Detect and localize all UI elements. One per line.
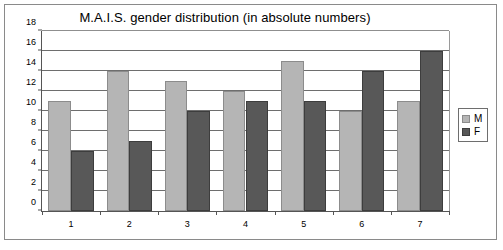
- x-tick-mark: [158, 211, 159, 215]
- y-tick-mark: [38, 110, 42, 111]
- y-tick-label: 14: [26, 57, 36, 67]
- bar-F-6: [362, 71, 385, 211]
- x-tick-label-4: 4: [243, 219, 248, 229]
- x-tick-label-6: 6: [359, 219, 364, 229]
- x-tick-mark: [275, 211, 276, 215]
- bar-M-7: [397, 101, 420, 211]
- bar-M-6: [339, 111, 362, 211]
- bar-F-1: [71, 151, 94, 211]
- y-tick-label: 8: [31, 117, 36, 127]
- x-tick-mark: [42, 211, 43, 215]
- y-tick-label: 6: [31, 137, 36, 147]
- y-tick-mark: [38, 130, 42, 131]
- bar-M-3: [165, 81, 188, 211]
- bar-F-3: [187, 111, 210, 211]
- x-tick-label-3: 3: [185, 219, 190, 229]
- bar-M-4: [223, 91, 246, 211]
- y-tick-label: 2: [31, 177, 36, 187]
- bar-M-1: [48, 101, 71, 211]
- y-tick-label: 0: [31, 197, 36, 207]
- gridline: [42, 30, 449, 31]
- x-tick-label-1: 1: [69, 219, 74, 229]
- legend-swatch-M-icon: [462, 115, 470, 123]
- bar-F-4: [246, 101, 269, 211]
- plot-area: 024681012141618 1234567: [41, 31, 449, 212]
- y-tick-mark: [38, 70, 42, 71]
- gridline: [42, 90, 449, 91]
- x-tick-mark: [391, 211, 392, 215]
- legend-label: F: [474, 127, 480, 137]
- chart-frame: M.A.I.S. gender distribution (in absolut…: [4, 4, 497, 240]
- y-tick-mark: [38, 170, 42, 171]
- bar-F-7: [420, 51, 443, 211]
- y-tick-mark: [38, 90, 42, 91]
- bar-F-5: [304, 101, 327, 211]
- x-tick-label-5: 5: [301, 219, 306, 229]
- y-tick-mark: [38, 30, 42, 31]
- legend-item-M[interactable]: M: [462, 112, 482, 125]
- y-tick-mark: [38, 150, 42, 151]
- y-tick-label: 16: [26, 37, 36, 47]
- legend-item-F[interactable]: F: [462, 125, 482, 138]
- chart-title: M.A.I.S. gender distribution (in absolut…: [5, 10, 445, 25]
- y-tick-label: 12: [26, 77, 36, 87]
- bar-M-5: [281, 61, 304, 211]
- bar-F-2: [129, 141, 152, 211]
- x-tick-mark: [100, 211, 101, 215]
- plot-right-edge: [449, 31, 450, 211]
- x-tick-mark: [449, 211, 450, 215]
- legend-swatch-F-icon: [462, 128, 470, 136]
- chart-legend: MF: [458, 108, 488, 142]
- y-tick-label: 10: [26, 97, 36, 107]
- x-tick-label-7: 7: [417, 219, 422, 229]
- y-tick-mark: [38, 50, 42, 51]
- x-tick-label-2: 2: [127, 219, 132, 229]
- legend-label: M: [474, 114, 482, 124]
- gridline: [42, 50, 449, 51]
- x-tick-mark: [216, 211, 217, 215]
- gridline: [42, 70, 449, 71]
- y-tick-label: 18: [26, 17, 36, 27]
- bar-M-2: [107, 71, 130, 211]
- y-tick-label: 4: [31, 157, 36, 167]
- x-tick-mark: [333, 211, 334, 215]
- y-tick-mark: [38, 190, 42, 191]
